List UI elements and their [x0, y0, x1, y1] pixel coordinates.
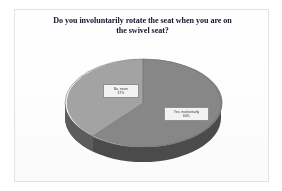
pie-label-yes-involuntarily-value: 60% [167, 114, 206, 118]
pie-label-yes-involuntarily: Yes, involuntarily 60% [164, 107, 209, 121]
pie-label-no-never: No, never 37% [103, 84, 139, 98]
figure-root: Do you involuntarily rotate the seat whe… [0, 0, 282, 191]
chart-title-line-1: Do you involuntarily rotate the seat whe… [53, 16, 232, 25]
chart-frame: Do you involuntarily rotate the seat whe… [14, 9, 269, 182]
chart-title: Do you involuntarily rotate the seat whe… [27, 16, 258, 37]
chart-title-line-2: the swivel seat? [116, 26, 169, 35]
pie-label-no-never-value: 37% [106, 91, 136, 95]
